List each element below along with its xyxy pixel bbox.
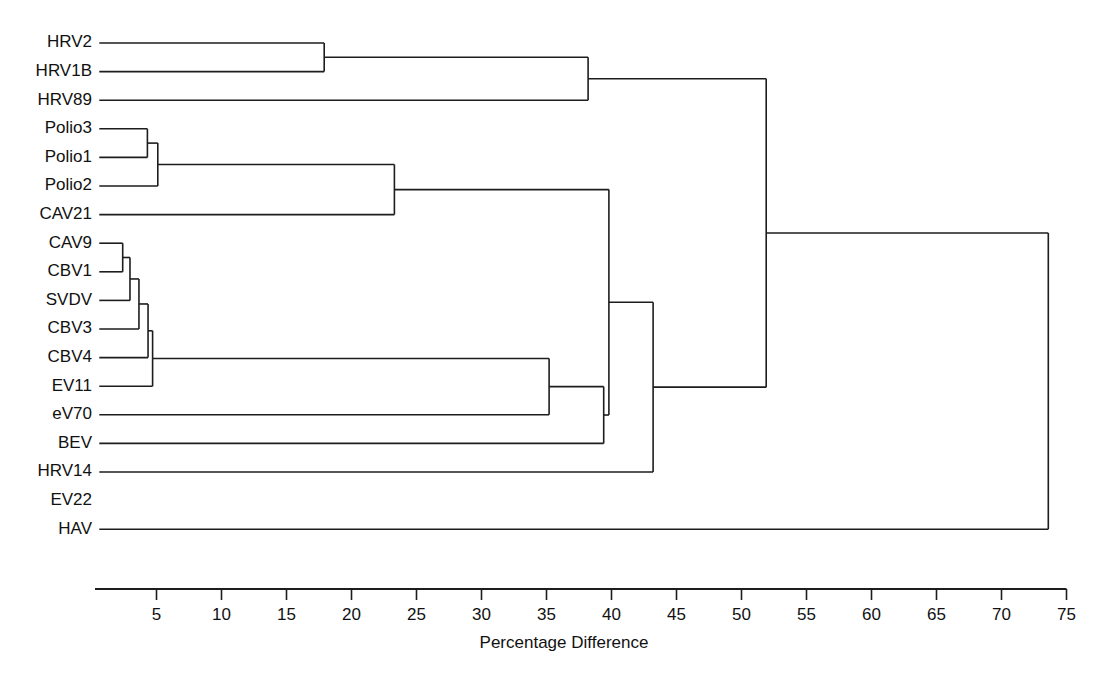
leaf-label-hrv2: HRV2: [47, 32, 92, 51]
x-axis-tick-label-60: 60: [862, 605, 881, 624]
dendrogram-figure: HRV2HRV1BHRV89Polio3Polio1Polio2CAV21CAV…: [0, 0, 1108, 686]
dendrogram-plot: HRV2HRV1BHRV89Polio3Polio1Polio2CAV21CAV…: [0, 0, 1108, 686]
leaf-label-ev11: EV11: [52, 376, 92, 395]
x-axis-tick-label-45: 45: [667, 605, 686, 624]
leaf-label-svdv: SVDV: [46, 290, 93, 309]
x-axis: 51015202530354045505560657075: [95, 589, 1076, 624]
leaf-label-cav21: CAV21: [39, 204, 92, 223]
leaf-label-bev: BEV: [58, 433, 93, 452]
x-axis-tick-label-15: 15: [277, 605, 296, 624]
x-axis-tick-label-75: 75: [1057, 605, 1076, 624]
leaf-label-polio1: Polio1: [45, 147, 92, 166]
leaf-label-cav9: CAV9: [49, 233, 92, 252]
leaf-label-hrv89: HRV89: [38, 90, 93, 109]
x-axis-tick-label-70: 70: [992, 605, 1011, 624]
leaf-label-cbv4: CBV4: [48, 347, 92, 366]
leaf-label-ev70: eV70: [52, 404, 92, 423]
leaf-label-hrv14: HRV14: [38, 461, 93, 480]
x-axis-tick-label-35: 35: [537, 605, 556, 624]
x-axis-tick-label-50: 50: [732, 605, 751, 624]
x-axis-tick-label-25: 25: [407, 605, 426, 624]
x-axis-tick-label-30: 30: [472, 605, 491, 624]
leaf-label-polio3: Polio3: [45, 118, 92, 137]
leaf-label-polio2: Polio2: [45, 175, 92, 194]
x-axis-title: Percentage Difference: [480, 633, 649, 652]
leaf-label-group: HRV2HRV1BHRV89Polio3Polio1Polio2CAV21CAV…: [36, 32, 93, 537]
leaf-label-ev22: EV22: [50, 490, 92, 509]
x-axis-tick-label-10: 10: [212, 605, 231, 624]
leaf-label-hrv1b: HRV1B: [36, 61, 92, 80]
x-axis-tick-label-5: 5: [152, 605, 161, 624]
leaf-label-cbv1: CBV1: [48, 261, 92, 280]
x-axis-tick-label-20: 20: [342, 605, 361, 624]
leaf-label-cbv3: CBV3: [48, 318, 92, 337]
x-axis-tick-label-40: 40: [602, 605, 621, 624]
branch-group: [99, 43, 1048, 529]
x-axis-tick-label-55: 55: [797, 605, 816, 624]
x-axis-tick-label-65: 65: [927, 605, 946, 624]
leaf-label-hav: HAV: [58, 519, 92, 538]
